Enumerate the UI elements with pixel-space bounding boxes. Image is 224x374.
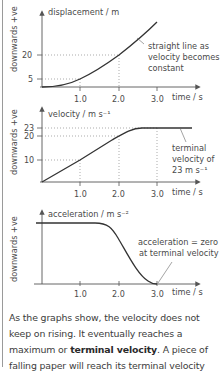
paragraph-line: maximum or terminal velocity. A piece of (9, 342, 224, 358)
x-axis-label: time / s (172, 92, 203, 102)
svg-text:3.0: 3.0 (151, 290, 164, 299)
svg-text:5: 5 (28, 75, 33, 84)
svg-text:2.0: 2.0 (112, 290, 125, 299)
svg-text:velocity / m s⁻¹: velocity / m s⁻¹ (48, 109, 110, 119)
side-label: downwards +ve (9, 6, 19, 72)
paragraph-line: keep on rising. It eventually reaches a (9, 326, 224, 342)
svg-text:downwards +ve: downwards +ve (9, 109, 19, 175)
displacement-graph: downwards +ve displacement / m 20 5 stra… (9, 6, 220, 104)
svg-text:straight line as: straight line as (148, 41, 209, 51)
svg-text:1.0: 1.0 (74, 290, 87, 299)
svg-text:3.0: 3.0 (151, 190, 164, 199)
acceleration-graph: downwards +ve acceleration / m s⁻² accel… (9, 209, 219, 299)
velocity-graph: downwards +ve velocity / m s⁻¹ 23 20 10 … (9, 109, 216, 199)
svg-text:acceleration = zero: acceleration = zero (138, 237, 218, 247)
svg-text:2.0: 2.0 (112, 95, 125, 104)
svg-text:terminal: terminal (172, 143, 206, 153)
y-axis-label: displacement / m (48, 7, 119, 17)
svg-text:3.0: 3.0 (151, 95, 164, 104)
svg-text:velocity becomes: velocity becomes (148, 52, 220, 62)
key-term: terminal velocity (70, 344, 157, 355)
svg-text:time / s: time / s (172, 187, 203, 197)
svg-text:time / s: time / s (172, 287, 203, 297)
motion-graphs: downwards +ve displacement / m 20 5 stra… (0, 0, 224, 305)
svg-text:velocity of: velocity of (172, 154, 216, 164)
svg-text:1.0: 1.0 (74, 190, 87, 199)
svg-text:20: 20 (24, 132, 34, 141)
svg-text:2.0: 2.0 (112, 190, 125, 199)
paragraph-line: falling paper will reach its terminal ve… (9, 358, 224, 374)
svg-text:constant: constant (148, 63, 184, 73)
svg-text:downwards +ve: downwards +ve (9, 216, 19, 282)
svg-text:23 m s⁻¹: 23 m s⁻¹ (172, 165, 207, 175)
svg-text:1.0: 1.0 (74, 95, 87, 104)
body-paragraph: As the graphs show, the velocity does no… (9, 310, 224, 374)
svg-text:acceleration / m s⁻²: acceleration / m s⁻² (48, 209, 129, 219)
svg-text:at terminal velocity: at terminal velocity (139, 248, 219, 258)
svg-text:10: 10 (24, 156, 34, 165)
svg-text:20: 20 (22, 51, 32, 60)
paragraph-line: As the graphs show, the velocity does no… (9, 310, 224, 326)
